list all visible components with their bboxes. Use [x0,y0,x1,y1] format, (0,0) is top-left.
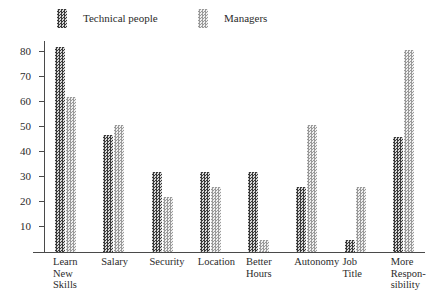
x-axis-label: Learn New Skills [53,256,77,291]
bars-layer [44,41,430,253]
bar [404,50,414,252]
y-axis-tick-label: 80 [20,45,31,57]
dark-hatch-swatch [57,9,67,28]
bar [211,187,221,252]
legend-entry-managers: Managers [198,8,267,28]
bar [66,97,76,252]
bar [200,172,210,252]
x-axis-label: Better Hours [246,256,272,279]
light-hatch-swatch [198,9,208,28]
x-axis-label: More Respon- sibility [391,256,426,291]
legend-label-managers: Managers [224,12,267,24]
bar [259,240,269,252]
bar [152,172,162,252]
y-axis-tick-label: 50 [20,120,31,132]
x-axis-label: Salary [101,256,128,268]
x-axis-label: Autonomy [294,256,339,268]
y-axis-tick-label: 40 [20,145,31,157]
chart-legend: Technical people Managers [0,0,430,36]
bar [345,240,355,252]
bar [296,187,306,252]
x-axis-label: Security [150,256,185,268]
legend-label-technical-people: Technical people [83,12,158,24]
bar [307,125,317,252]
plot-area: 1020304050607080 [44,41,430,253]
y-axis-tick-label: 30 [20,170,31,182]
x-axis-labels: Learn New SkillsSalarySecurityLocationBe… [44,256,430,304]
bar [393,137,403,252]
bar [114,125,124,252]
y-axis-tick-label: 20 [20,195,31,207]
x-axis-label: Location [198,256,235,268]
bar-chart: Technical people Managers 10203040506070… [0,0,430,304]
bar [55,47,65,252]
bar [163,197,173,252]
bar [356,187,366,252]
bar [103,135,113,252]
y-axis-tick-label: 60 [20,95,31,107]
x-axis-label: Job Title [343,256,362,279]
bar [248,172,258,252]
y-axis-tick-label: 70 [20,70,31,82]
legend-entry-technical-people: Technical people [57,8,158,28]
y-axis-tick-label: 10 [20,220,31,232]
